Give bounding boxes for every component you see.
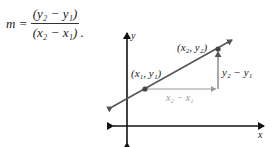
point-1 (142, 86, 147, 91)
x-axis-label: x (257, 129, 263, 140)
rise-label: y₂ − y₁ (221, 66, 253, 78)
point-1-label: (x₁, y₁) (131, 67, 162, 80)
slope-diagram: y x (x₁, y₁) (x₂, y₂) x₂ − x₁ y₂ − y₁ (0, 0, 274, 147)
point-2-label: (x₂, y₂) (177, 41, 208, 54)
point-2 (215, 46, 220, 51)
y-axis-label: y (130, 30, 136, 41)
run-label: x₂ − x₁ (165, 92, 194, 103)
